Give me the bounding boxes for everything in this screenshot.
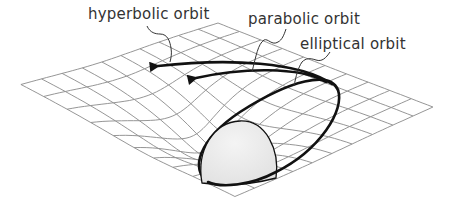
grid-line [91,49,283,123]
grid-line [21,23,218,85]
hyperbolic-leader [147,26,171,62]
parabolic-orbit-label: parabolic orbit [248,12,360,27]
central-mass-icon [201,121,277,185]
grid-line [67,40,261,109]
hyperbolic-orbit-label: hyperbolic orbit [88,7,209,22]
elliptical-orbit-label: elliptical orbit [300,37,406,52]
orbit-diagram [0,0,453,203]
